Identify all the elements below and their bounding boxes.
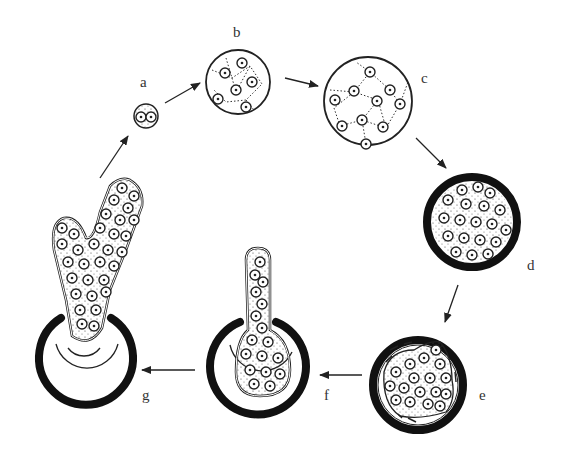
stage-a-cell bbox=[134, 104, 158, 128]
stage-b-cell bbox=[206, 50, 270, 114]
stage-label-d: d bbox=[527, 257, 535, 274]
stage-f-cell bbox=[210, 248, 306, 414]
stage-label-e: e bbox=[479, 387, 486, 404]
stage-label-b: b bbox=[233, 24, 241, 41]
stage-e-cell bbox=[373, 340, 463, 430]
stage-label-a: a bbox=[140, 74, 147, 91]
stage-label-f: f bbox=[324, 387, 329, 404]
stage-d-cell bbox=[427, 177, 517, 267]
stage-label-g: g bbox=[142, 387, 150, 404]
stage-label-c: c bbox=[421, 70, 428, 87]
stage-g-cell bbox=[39, 179, 142, 405]
stage-c-cell bbox=[324, 57, 412, 149]
life-cycle-diagram: a b c d e f g bbox=[0, 0, 568, 459]
